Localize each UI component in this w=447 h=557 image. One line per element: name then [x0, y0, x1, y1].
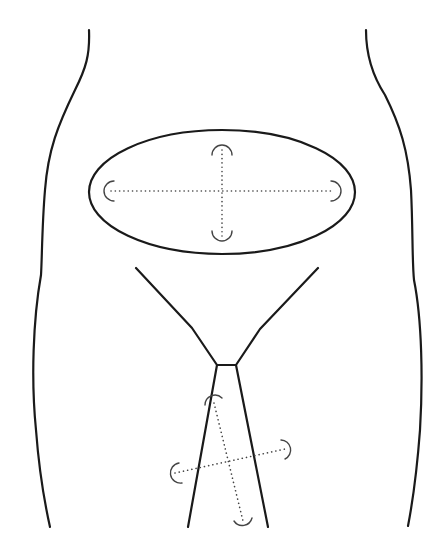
ellipse-left-cap — [104, 181, 114, 201]
ellipse-right-cap — [331, 181, 341, 201]
right-body-outline — [366, 30, 422, 526]
strip-long-axis-bottom-cap — [234, 518, 252, 525]
tapered-strip-left-edge — [188, 365, 217, 527]
strip-long-axis — [214, 403, 243, 521]
v-shaped-outline — [136, 268, 318, 365]
torso-diagram — [0, 0, 447, 557]
left-body-outline — [33, 30, 89, 527]
strip-short-axis-right-cap — [281, 440, 291, 459]
strip-short-axis-left-cap — [170, 463, 182, 483]
tapered-strip-right-edge — [236, 365, 268, 527]
